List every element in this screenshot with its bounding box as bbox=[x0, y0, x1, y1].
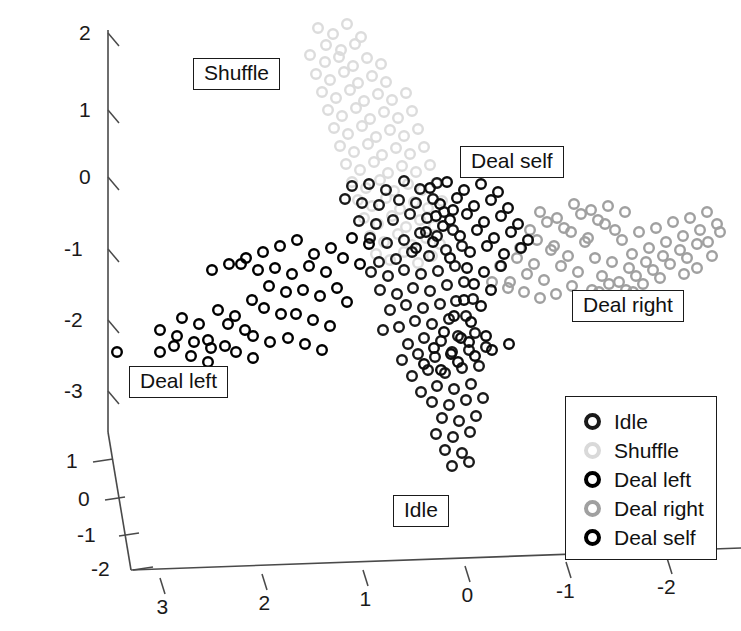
data-point bbox=[413, 349, 423, 359]
data-point bbox=[529, 259, 539, 269]
data-point bbox=[287, 269, 297, 279]
legend-item-deal-left[interactable]: Deal left bbox=[584, 467, 691, 491]
data-point bbox=[707, 251, 717, 261]
data-point bbox=[459, 277, 469, 287]
cluster-label-deal-right: Deal right bbox=[572, 290, 684, 322]
depth-axis-line bbox=[108, 432, 131, 570]
vertical-axis-tick-label: 1 bbox=[79, 99, 91, 120]
data-point bbox=[367, 71, 377, 81]
legend: IdleShuffleDeal leftDeal rightDeal self bbox=[565, 396, 717, 560]
data-point bbox=[692, 239, 702, 249]
data-point bbox=[703, 237, 713, 247]
data-point bbox=[347, 233, 357, 243]
data-point bbox=[679, 269, 689, 279]
data-point bbox=[476, 301, 486, 311]
data-point bbox=[416, 387, 426, 397]
data-point bbox=[305, 50, 315, 60]
data-point bbox=[393, 113, 403, 123]
data-point bbox=[431, 429, 441, 439]
data-point bbox=[397, 161, 407, 171]
data-point bbox=[569, 199, 579, 209]
legend-marker-circle-icon bbox=[584, 529, 601, 546]
data-point bbox=[383, 271, 393, 281]
data-point bbox=[399, 131, 409, 141]
horizontal-axis-tick bbox=[262, 574, 267, 590]
data-point bbox=[651, 223, 661, 233]
data-point bbox=[503, 283, 513, 293]
data-point bbox=[695, 225, 705, 235]
vertical-axis-tick bbox=[108, 320, 119, 333]
data-point bbox=[326, 243, 336, 253]
horizontal-axis-tick bbox=[667, 558, 672, 574]
data-point bbox=[155, 347, 165, 357]
data-point bbox=[610, 225, 620, 235]
data-point bbox=[512, 253, 522, 263]
data-point bbox=[304, 261, 314, 271]
data-point bbox=[525, 225, 535, 235]
data-point bbox=[607, 257, 617, 267]
data-point bbox=[471, 411, 481, 421]
data-point bbox=[338, 253, 348, 263]
data-point bbox=[665, 259, 675, 269]
data-point bbox=[449, 384, 459, 394]
data-point bbox=[542, 217, 552, 227]
data-point bbox=[692, 263, 702, 273]
data-point bbox=[321, 267, 331, 277]
data-point bbox=[448, 432, 458, 442]
data-point bbox=[482, 241, 492, 251]
data-point bbox=[452, 193, 462, 203]
data-point bbox=[462, 263, 472, 273]
data-point bbox=[435, 299, 445, 309]
data-point bbox=[220, 341, 230, 351]
data-point bbox=[425, 160, 435, 170]
horizontal-axis-tick-label: -2 bbox=[657, 576, 676, 597]
legend-item-deal-right[interactable]: Deal right bbox=[584, 496, 704, 520]
data-point bbox=[373, 89, 383, 99]
vertical-axis-tick bbox=[108, 110, 119, 123]
data-point bbox=[379, 107, 389, 117]
data-point bbox=[586, 205, 596, 215]
data-point bbox=[405, 149, 415, 159]
depth-axis-tick-label: 0 bbox=[78, 488, 90, 509]
data-point bbox=[462, 209, 472, 219]
data-point bbox=[411, 167, 421, 177]
legend-item-deal-self[interactable]: Deal self bbox=[584, 525, 696, 549]
data-point bbox=[177, 313, 187, 323]
data-point bbox=[357, 121, 367, 131]
data-point bbox=[321, 40, 331, 50]
data-point bbox=[504, 339, 514, 349]
horizontal-axis-tick-label: 2 bbox=[259, 592, 271, 613]
data-point bbox=[253, 265, 263, 275]
figure-3d-scatter: 210-1-2-310-1-23210-1-2 ShuffleDeal self… bbox=[0, 0, 741, 631]
data-point bbox=[270, 263, 280, 273]
data-point bbox=[445, 253, 455, 263]
data-point bbox=[172, 331, 182, 341]
legend-item-idle[interactable]: Idle bbox=[584, 409, 648, 433]
cluster-label-deal-self: Deal self bbox=[460, 146, 564, 178]
series-deal-self bbox=[411, 177, 533, 375]
data-point bbox=[350, 39, 360, 49]
data-point bbox=[535, 293, 545, 303]
data-point bbox=[248, 331, 258, 341]
depth-axis-tick bbox=[93, 459, 113, 462]
data-point bbox=[325, 75, 335, 85]
data-point bbox=[617, 235, 627, 245]
data-point bbox=[399, 265, 409, 275]
data-point bbox=[425, 286, 435, 296]
data-point bbox=[169, 341, 179, 351]
data-point bbox=[702, 207, 712, 217]
legend-item-label: Deal self bbox=[614, 527, 696, 548]
data-point bbox=[345, 85, 355, 95]
cluster-label-deal-left: Deal left bbox=[129, 366, 228, 398]
data-point bbox=[264, 281, 274, 291]
data-point bbox=[457, 448, 467, 458]
data-point bbox=[685, 213, 695, 223]
horizontal-axis-tick-label: -1 bbox=[556, 580, 575, 601]
data-point bbox=[385, 125, 395, 135]
legend-item-shuffle[interactable]: Shuffle bbox=[584, 438, 679, 462]
data-point bbox=[300, 339, 310, 349]
legend-marker-circle-icon bbox=[584, 471, 601, 488]
data-point bbox=[224, 259, 234, 269]
data-point bbox=[506, 227, 516, 237]
data-point bbox=[375, 175, 385, 185]
